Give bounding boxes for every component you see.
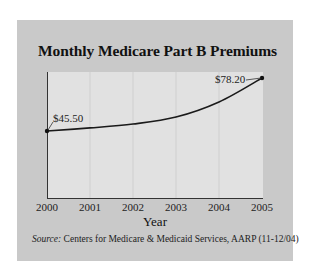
end-value-label: $78.20 bbox=[215, 73, 245, 85]
source-note: Source: Centers for Medicare & Medicaid … bbox=[32, 234, 299, 244]
x-tick-2003: 2003 bbox=[156, 201, 196, 213]
x-tick-2004: 2004 bbox=[199, 201, 239, 213]
x-tick-2005: 2005 bbox=[242, 201, 282, 213]
x-tick-2002: 2002 bbox=[113, 201, 153, 213]
source-text: Centers for Medicare & Medicaid Services… bbox=[61, 234, 299, 244]
plot-area bbox=[47, 72, 263, 198]
x-axis-label: Year bbox=[130, 214, 180, 230]
x-tick-2001: 2001 bbox=[70, 201, 110, 213]
x-tick-2000: 2000 bbox=[27, 201, 67, 213]
start-value-label: $45.50 bbox=[53, 112, 83, 124]
source-key: Source: bbox=[32, 234, 61, 244]
